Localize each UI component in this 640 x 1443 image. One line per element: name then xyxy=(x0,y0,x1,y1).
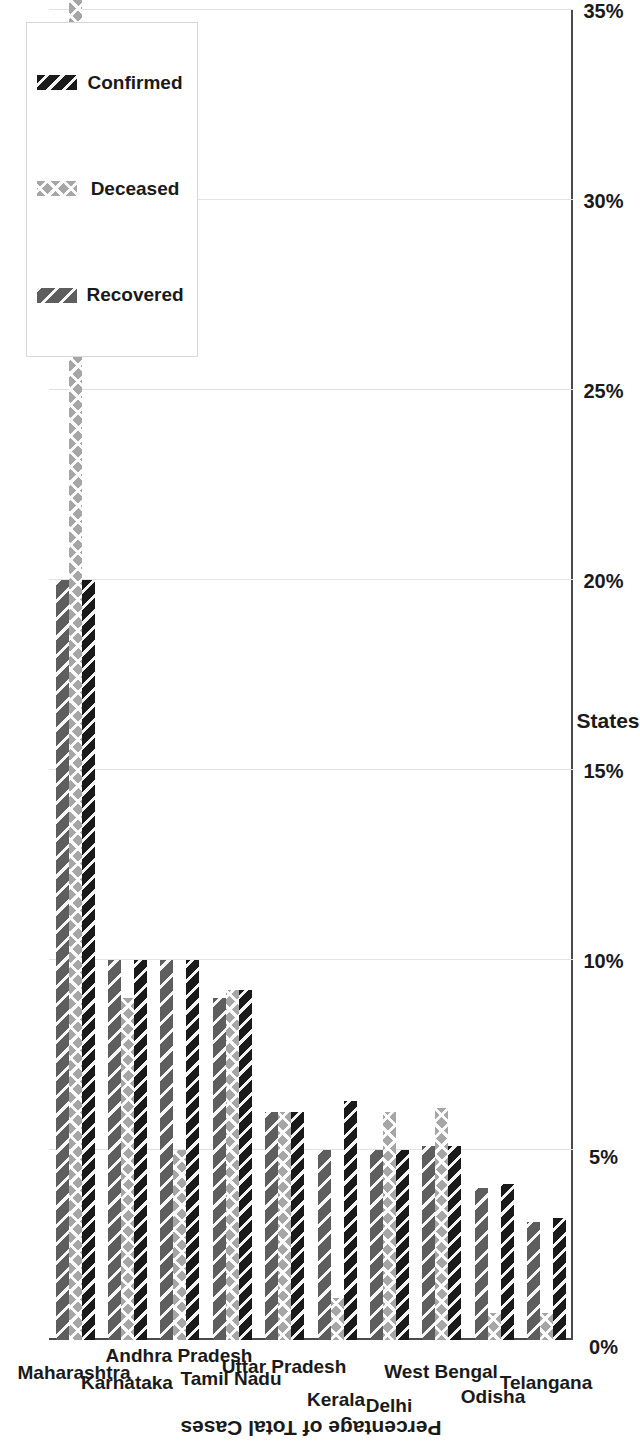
bar-recovered[interactable] xyxy=(475,1188,488,1340)
category-label: Delhi xyxy=(378,1383,400,1429)
bar-group xyxy=(206,10,258,1340)
recovered-swatch-icon xyxy=(37,288,77,303)
bar-confirmed[interactable] xyxy=(553,1218,566,1340)
legend-item-label: Deceased xyxy=(91,177,180,199)
bar-group xyxy=(521,10,573,1340)
category-label-text: West Bengal xyxy=(384,1361,498,1383)
bar-confirmed[interactable] xyxy=(448,1146,461,1340)
bar-deceased[interactable] xyxy=(226,990,239,1340)
bar-deceased[interactable] xyxy=(121,998,134,1340)
bar-group xyxy=(468,10,520,1340)
bar-group xyxy=(311,10,363,1340)
category-label: Andhra Pradesh xyxy=(168,1282,190,1429)
bar-recovered[interactable] xyxy=(56,580,69,1340)
category-label: West Bengal xyxy=(430,1315,452,1429)
bar-deceased[interactable] xyxy=(383,1112,396,1340)
bar-recovered[interactable] xyxy=(370,1150,383,1340)
legend-item[interactable]: Confirmed xyxy=(37,35,187,130)
bar-recovered[interactable] xyxy=(527,1222,540,1340)
category-label: Telangana xyxy=(535,1336,557,1429)
category-label-text: Kerala xyxy=(307,1389,365,1411)
bar-recovered[interactable] xyxy=(108,960,121,1340)
confirmed-swatch-icon xyxy=(37,75,77,90)
bar-confirmed[interactable] xyxy=(239,990,252,1340)
legend-item[interactable]: Deceased xyxy=(37,144,187,233)
bar-recovered[interactable] xyxy=(318,1150,331,1340)
chart-legend: Confirmed Deceased Recovered xyxy=(26,22,198,357)
bar-recovered[interactable] xyxy=(213,998,226,1340)
deceased-swatch-icon xyxy=(37,181,77,196)
bar-recovered[interactable] xyxy=(422,1146,435,1340)
bar-group xyxy=(416,10,468,1340)
category-axis-title-text: States xyxy=(576,710,639,734)
category-label: Tamil Nadu xyxy=(220,1328,242,1429)
legend-item-label: Confirmed xyxy=(88,72,183,94)
value-axis-title: Percentage of Total Cases xyxy=(0,1413,622,1443)
bar-confirmed[interactable] xyxy=(134,960,147,1340)
category-axis-title: States xyxy=(596,0,620,1443)
bar-group xyxy=(363,10,415,1340)
bar-group xyxy=(259,10,311,1340)
bar-deceased[interactable] xyxy=(435,1108,448,1340)
legend-item[interactable]: Recovered xyxy=(37,247,187,344)
bar-confirmed[interactable] xyxy=(501,1184,514,1340)
bar-confirmed[interactable] xyxy=(396,1150,409,1340)
category-label: Uttar Pradesh xyxy=(273,1304,295,1429)
legend-item-label: Recovered xyxy=(86,284,183,306)
bar-confirmed[interactable] xyxy=(82,580,95,1340)
category-label-text: Delhi xyxy=(365,1395,411,1417)
category-label-text: Karnataka xyxy=(81,1372,173,1394)
bar-deceased[interactable] xyxy=(331,1298,344,1340)
category-label-text: Telangana xyxy=(500,1372,593,1394)
category-label: Kerala xyxy=(325,1371,347,1429)
bar-confirmed[interactable] xyxy=(344,1101,357,1340)
bar-deceased[interactable] xyxy=(488,1313,501,1340)
